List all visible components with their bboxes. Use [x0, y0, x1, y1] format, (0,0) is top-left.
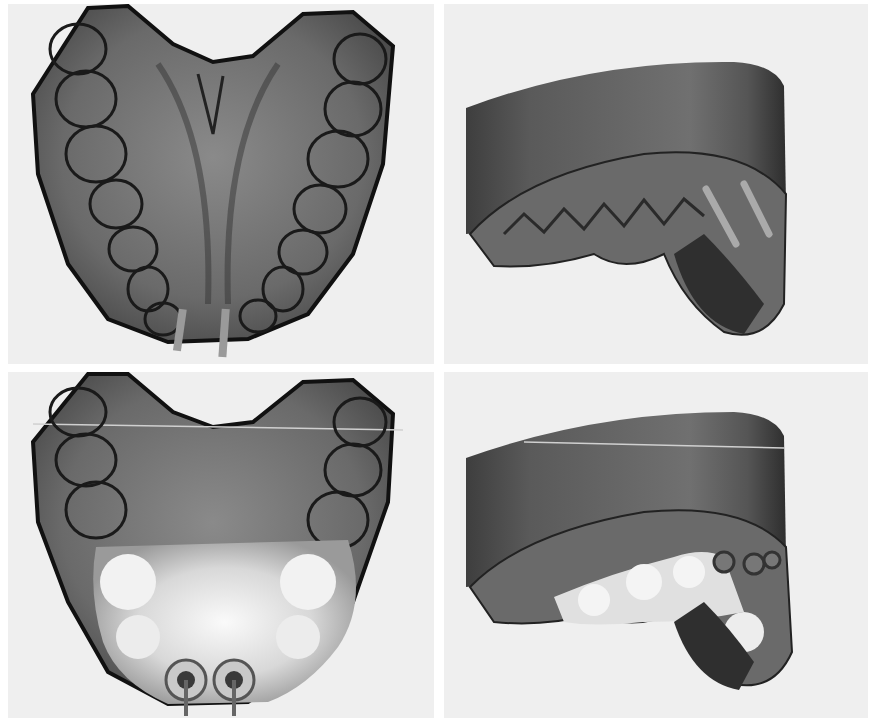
panel-oblique-before [444, 4, 868, 364]
occlusal-arch-render [8, 4, 434, 364]
oblique-prosthesis-render [444, 372, 868, 718]
panel-occlusal-before [8, 4, 434, 364]
oblique-cast-render [444, 4, 868, 364]
panel-oblique-after [444, 372, 868, 718]
panel-occlusal-after [8, 372, 434, 718]
occlusal-prosthesis-render [8, 372, 434, 718]
